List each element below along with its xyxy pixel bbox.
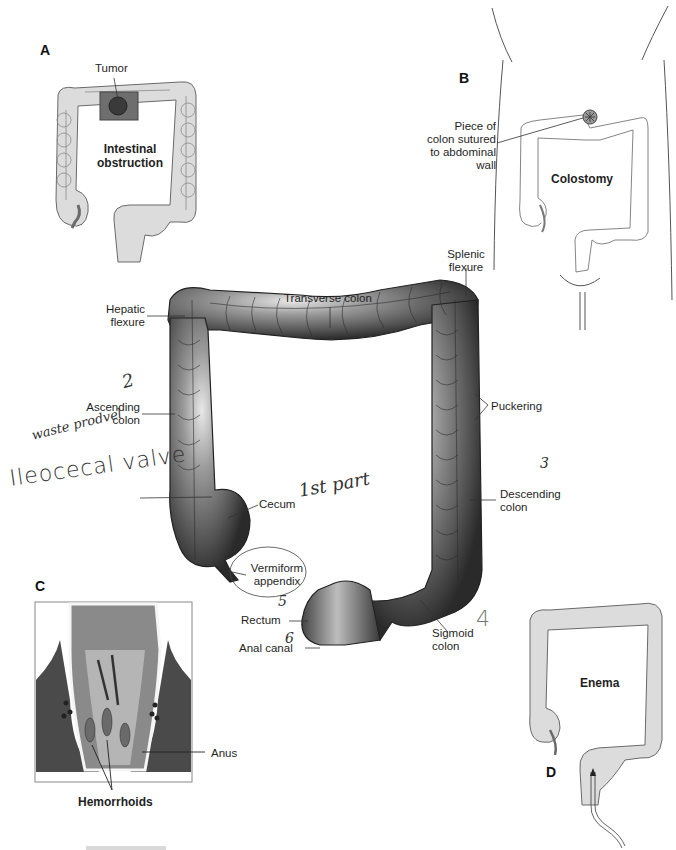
splenic-flexure-label: Splenic flexure [436, 248, 496, 274]
handwritten-number-5: 5 [278, 593, 287, 609]
panel-b-title: Colostomy [551, 172, 613, 186]
panel-b-letter: B [459, 70, 469, 86]
vermiform-appendix-line1: Vermiform [247, 562, 307, 575]
colostomy-callout-line2: colon sutured [414, 133, 496, 146]
sigmoid-colon-line2: colon [432, 640, 474, 653]
handwritten-number-3: 3 [540, 455, 549, 471]
panel-b-colon [520, 115, 648, 272]
handwritten-number-6: 6 [285, 630, 294, 646]
sigmoid-colon-line1: Sigmoid [432, 627, 474, 640]
vermiform-appendix-label: Vermiform appendix [247, 562, 307, 588]
puckering-label: Puckering [491, 400, 542, 413]
panel-c-letter: C [35, 578, 45, 594]
panel-a-title-line2: obstruction [95, 156, 165, 170]
descending-colon-label: Descending colon [500, 488, 561, 514]
tumor-label: Tumor [95, 62, 128, 75]
descending-colon-line1: Descending [500, 488, 561, 501]
sigmoid-colon-label: Sigmoid colon [432, 627, 474, 653]
rectum-label: Rectum [241, 614, 281, 627]
handwritten-number-4: 4 [476, 606, 490, 631]
colostomy-callout-line4: wall [414, 159, 496, 172]
transverse-colon-label: Transverse colon [284, 292, 372, 305]
panel-a-letter: A [40, 42, 50, 58]
panel-d-title: Enema [580, 676, 619, 690]
anus-label: Anus [211, 747, 237, 760]
colostomy-callout-line3: to abdominal [414, 146, 496, 159]
hepatic-flexure-line2: flexure [90, 316, 145, 329]
splenic-flexure-line2: flexure [436, 261, 496, 274]
panel-a-title: Intestinal obstruction [95, 142, 165, 170]
vermiform-appendix-line2: appendix [247, 575, 307, 588]
panel-c-section [35, 602, 205, 790]
hemorrhoids-label: Hemorrhoids [78, 795, 153, 809]
colostomy-callout-line1: Piece of [414, 120, 496, 133]
bottom-gray-bar [86, 846, 166, 850]
hepatic-flexure-line1: Hepatic [90, 303, 145, 316]
splenic-flexure-line1: Splenic [436, 248, 496, 261]
panel-a-title-line1: Intestinal [95, 142, 165, 156]
panel-d-letter: D [546, 764, 556, 780]
colostomy-callout: Piece of colon sutured to abdominal wall [414, 120, 496, 172]
hepatic-flexure-label: Hepatic flexure [90, 303, 145, 329]
cecum-label: Cecum [259, 498, 295, 511]
main-colon [168, 280, 482, 645]
descending-colon-line2: colon [500, 501, 561, 514]
